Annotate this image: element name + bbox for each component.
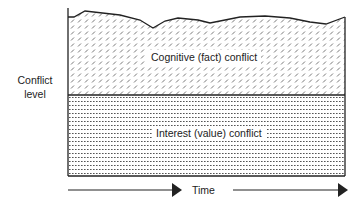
time-arrow-1-head-icon (172, 183, 182, 197)
y-axis-label-line1: Conflict (10, 73, 60, 87)
cognitive-conflict-label: Cognitive (fact) conflict (147, 50, 261, 65)
conflict-diagram (0, 0, 363, 213)
time-arrow-2-head-icon (338, 183, 348, 197)
y-axis-label-line2: level (10, 87, 60, 101)
interest-conflict-label: Interest (value) conflict (152, 126, 266, 141)
x-axis-label: Time (192, 184, 215, 196)
y-axis-label: Conflict level (10, 73, 60, 101)
